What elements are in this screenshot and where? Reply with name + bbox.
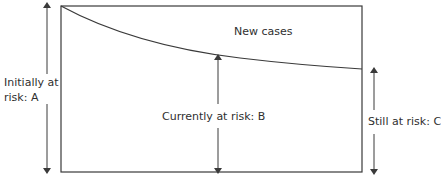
at-risk-curve: [61, 6, 362, 69]
initially-at-risk-line1: Initially at: [4, 75, 59, 90]
initially-at-risk-line2: risk: A: [4, 90, 59, 105]
initially-at-risk-label: Initially at risk: A: [4, 75, 59, 105]
still-at-risk-label: Still at risk: C: [368, 114, 441, 129]
new-cases-label: New cases: [234, 24, 293, 39]
population-box: [61, 6, 362, 172]
currently-at-risk-label: Currently at risk: B: [162, 109, 265, 124]
